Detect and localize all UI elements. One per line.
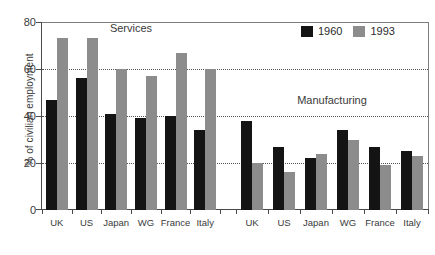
bar-group-uk	[42, 22, 72, 210]
x-tick-mark	[364, 209, 365, 214]
x-label-france: France	[161, 216, 191, 232]
y-tick-60: 60	[10, 64, 36, 75]
x-tick-mark	[220, 209, 221, 214]
x-label-uk: UK	[42, 216, 72, 232]
bar-groups-services	[42, 22, 220, 210]
legend-label-1960: 1960	[318, 26, 342, 37]
y-tick-40: 40	[10, 111, 36, 122]
x-tick-mark	[268, 209, 269, 214]
bar-1993-italy	[205, 69, 216, 210]
x-axis-ticks-manufacturing	[236, 209, 428, 215]
bar-1993-france	[176, 53, 187, 210]
bar-1993-uk	[57, 38, 68, 210]
bar-group-france	[364, 22, 396, 210]
legend-item-1960: 1960	[301, 26, 342, 37]
bar-1960-japan	[305, 158, 316, 210]
x-axis-labels-manufacturing: UK US Japan WG France Italy	[236, 216, 428, 232]
y-tick-20: 20	[10, 158, 36, 169]
bar-1960-wg	[337, 130, 348, 210]
bar-1960-uk	[46, 100, 57, 210]
bar-group-japan	[101, 22, 131, 210]
x-label-wg: WG	[131, 216, 161, 232]
bar-1960-italy	[194, 130, 205, 210]
x-tick-mark	[300, 209, 301, 214]
x-tick-mark	[42, 209, 43, 214]
x-tick-mark	[101, 209, 102, 214]
x-tick-mark	[396, 209, 397, 214]
x-tick-mark	[190, 209, 191, 214]
x-tick-mark	[72, 209, 73, 214]
bar-1960-france	[165, 116, 176, 210]
bar-1960-uk	[241, 121, 252, 210]
bar-1960-france	[369, 147, 380, 210]
bar-1960-us	[76, 78, 87, 210]
bar-1993-wg	[146, 76, 157, 210]
bar-1960-us	[273, 147, 284, 210]
bar-group-japan	[300, 22, 332, 210]
legend-item-1993: 1993	[353, 26, 394, 37]
bar-group-us	[72, 22, 102, 210]
bar-1993-uk	[252, 163, 263, 210]
bar-group-us	[268, 22, 300, 210]
bar-group-wg	[131, 22, 161, 210]
x-label-italy: Italy	[190, 216, 220, 232]
y-axis-ticks: 80 60 40 20 0	[6, 0, 36, 255]
bar-1993-italy	[412, 156, 423, 210]
bar-groups-manufacturing	[236, 22, 428, 210]
bar-1993-japan	[316, 154, 327, 210]
bar-1993-us	[284, 172, 295, 210]
y-tick-0: 0	[10, 205, 36, 216]
y-tick-80: 80	[10, 17, 36, 28]
x-axis-labels-services: UK US Japan WG France Italy	[42, 216, 220, 232]
x-label-japan: Japan	[101, 216, 131, 232]
bar-1993-us	[87, 38, 98, 210]
x-label-wg: WG	[332, 216, 364, 232]
x-tick-mark	[428, 209, 429, 214]
x-label-france: France	[364, 216, 396, 232]
legend-swatch-icon-1993	[353, 26, 365, 37]
bar-1993-france	[380, 165, 391, 210]
x-label-japan: Japan	[300, 216, 332, 232]
bar-1993-japan	[116, 69, 127, 210]
bar-1960-wg	[135, 118, 146, 210]
panel-services: Services	[42, 22, 220, 210]
x-tick-mark	[236, 209, 237, 214]
bar-group-uk	[236, 22, 268, 210]
legend-swatch-icon-1960	[301, 26, 313, 37]
bar-1993-wg	[348, 140, 359, 211]
legend-label-1993: 1993	[370, 26, 394, 37]
bar-1960-japan	[105, 114, 116, 210]
bar-group-italy	[190, 22, 220, 210]
bar-chart: % of civilian employment 80 60 40 20 0 S…	[0, 0, 435, 255]
x-label-us: US	[72, 216, 102, 232]
x-label-uk: UK	[236, 216, 268, 232]
legend: 1960 1993	[301, 26, 395, 37]
x-label-us: US	[268, 216, 300, 232]
x-tick-mark	[131, 209, 132, 214]
bar-1960-italy	[401, 151, 412, 210]
bar-group-wg	[332, 22, 364, 210]
bar-group-france	[161, 22, 191, 210]
x-axis-ticks-services	[42, 209, 220, 215]
x-tick-mark	[332, 209, 333, 214]
panel-manufacturing: Manufacturing	[236, 22, 428, 210]
x-label-italy: Italy	[396, 216, 428, 232]
bar-group-italy	[396, 22, 428, 210]
x-tick-mark	[161, 209, 162, 214]
